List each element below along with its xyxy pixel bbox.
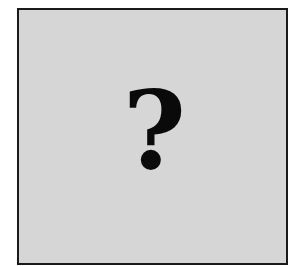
placeholder-image-frame: ? bbox=[17, 8, 288, 265]
question-mark-icon: ? bbox=[21, 76, 288, 184]
